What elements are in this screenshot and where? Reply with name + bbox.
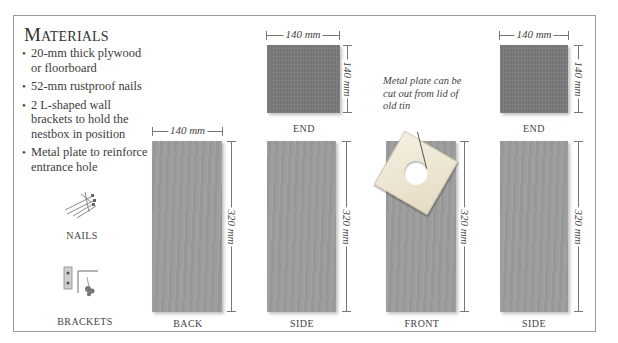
back-width-dimension: 140 mm xyxy=(152,127,223,136)
materials-list: 20-mm thick plywood or floorboard 52-mm … xyxy=(22,46,152,178)
end2-height-dimension: 140 mm xyxy=(574,45,583,113)
end-panel-2 xyxy=(500,45,568,113)
side1-height-dimension: 320 mm xyxy=(342,141,351,312)
dimension-label: 320 mm xyxy=(226,207,238,246)
end2-label: END xyxy=(515,123,553,134)
nails-label: NAILS xyxy=(60,230,104,241)
side-panel-1 xyxy=(267,141,336,312)
side1-label: SIDE xyxy=(282,318,322,329)
end1-height-dimension: 140 mm xyxy=(343,45,352,113)
end2-width-dimension: 140 mm xyxy=(499,31,569,40)
end-panel-1 xyxy=(267,45,340,113)
front-height-dimension: 320 mm xyxy=(460,141,469,312)
materials-heading: MATERIALS xyxy=(24,24,109,46)
back-height-dimension: 320 mm xyxy=(227,141,236,312)
dimension-label: 140 mm xyxy=(514,28,553,40)
side2-height-dimension: 320 mm xyxy=(574,141,583,312)
material-item: 2 L-shaped wall brackets to hold the nes… xyxy=(22,98,152,142)
dimension-label: 140 mm xyxy=(168,124,207,136)
heading-rest: ATERIALS xyxy=(41,29,109,44)
end1-width-dimension: 140 mm xyxy=(266,31,340,40)
dimension-label: 140 mm xyxy=(283,28,322,40)
material-item: 52-mm rustproof nails xyxy=(22,79,152,94)
end1-label: END xyxy=(285,123,323,134)
nails-icon xyxy=(63,190,99,220)
brackets-label: BRACKETS xyxy=(54,316,116,327)
dimension-label: 140 mm xyxy=(573,59,585,98)
material-item: Metal plate to reinforce entrance hole xyxy=(22,145,152,174)
dimension-label: 320 mm xyxy=(459,207,471,246)
back-label: BACK xyxy=(167,318,209,329)
heading-initial: M xyxy=(24,24,41,45)
metal-plate-note: Metal plate can be cut out from lid of o… xyxy=(383,75,463,113)
brackets-icon xyxy=(62,265,106,299)
dimension-label: 320 mm xyxy=(573,207,585,246)
back-panel xyxy=(152,141,222,312)
side2-label: SIDE xyxy=(514,318,554,329)
side-panel-2 xyxy=(500,141,568,312)
dimension-label: 140 mm xyxy=(342,59,354,98)
dimension-label: 320 mm xyxy=(341,207,353,246)
entrance-hole xyxy=(400,157,433,190)
front-label: FRONT xyxy=(399,318,445,329)
material-item: 20-mm thick plywood or floorboard xyxy=(22,46,152,75)
